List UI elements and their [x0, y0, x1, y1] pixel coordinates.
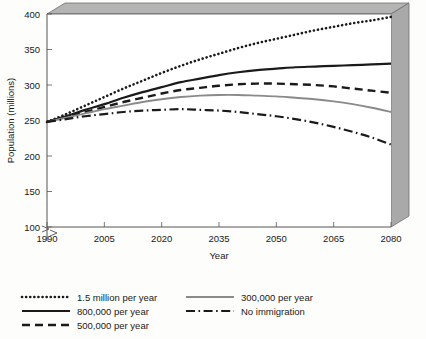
legend-label-500-000-per-year: 500,000 per year: [77, 320, 149, 331]
x-tick-label: 1990: [36, 233, 57, 244]
chart-canvas: 1001502002503003504001990200520202035205…: [0, 0, 426, 339]
y-tick-label: 300: [24, 80, 40, 91]
x-tick-label: 2005: [94, 233, 115, 244]
x-axis-title: Year: [209, 250, 228, 261]
x-tick-label: 2020: [151, 233, 172, 244]
x-tick-label: 2080: [380, 233, 401, 244]
x-tick-label: 2035: [208, 233, 229, 244]
population-projection-figure: 1001502002503003504001990200520202035205…: [0, 0, 426, 339]
y-tick-label: 400: [24, 9, 40, 20]
chart-3d-top-band: [47, 3, 409, 14]
y-tick-label: 100: [24, 222, 40, 233]
x-tick-label: 2065: [323, 233, 344, 244]
plot-area-background: [47, 14, 391, 227]
legend-label-no-immigration: No immigration: [241, 306, 305, 317]
legend-label-800-000-per-year: 800,000 per year: [77, 306, 149, 317]
chart-3d-right-wall: [391, 3, 409, 227]
y-axis-title: Population (millions): [5, 78, 16, 164]
legend-label-300-000-per-year: 300,000 per year: [241, 292, 313, 303]
y-tick-label: 200: [24, 151, 40, 162]
y-tick-label: 250: [24, 115, 40, 126]
legend-label-1-5-million-per-year: 1.5 million per year: [77, 292, 157, 303]
y-tick-label: 150: [24, 186, 40, 197]
x-tick-label: 2050: [266, 233, 287, 244]
y-tick-label: 350: [24, 44, 40, 55]
